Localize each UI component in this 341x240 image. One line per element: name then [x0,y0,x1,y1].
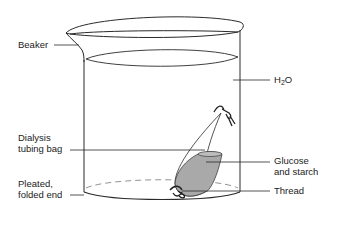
label-pleated-end: Pleated, folded end [18,178,62,200]
label-water: H2O [274,74,292,85]
label-beaker: Beaker [18,39,48,50]
label-glucose-starch: Glucose and starch [274,155,318,177]
beaker-bottom-dashed [86,180,238,188]
leader-lines [54,45,270,195]
dialysis-line2: tubing bag [18,143,62,154]
label-dialysis-bag: Dialysis tubing bag [18,132,62,154]
label-thread: Thread [274,185,304,196]
glucose-line2: and starch [274,166,318,177]
pleated-line2: folded end [18,189,62,200]
water-h: H [274,74,281,85]
pleated-line1: Pleated, [18,178,62,189]
water-o: O [285,74,292,85]
dialysis-line1: Dialysis [18,132,62,143]
glucose-line1: Glucose [274,155,318,166]
